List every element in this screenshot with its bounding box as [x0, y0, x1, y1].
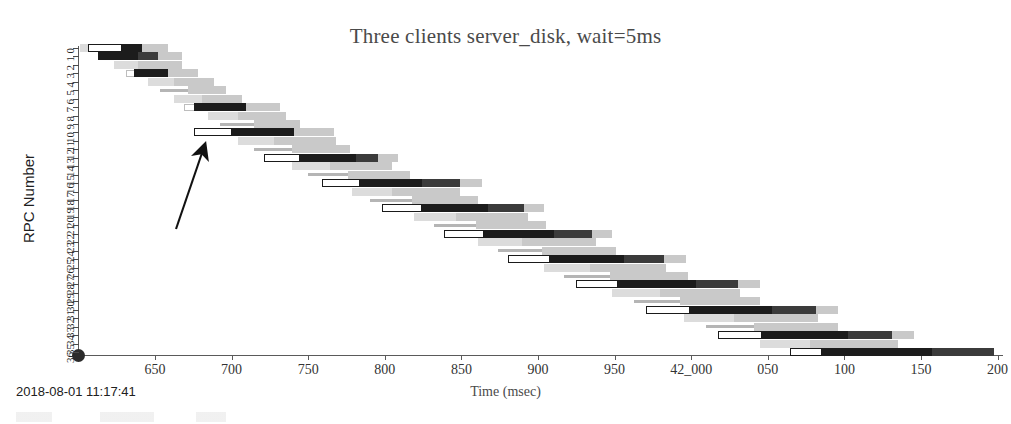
rpc-segment-13-2: [356, 154, 378, 162]
x-tick-label-050: 050: [757, 362, 778, 378]
rpc-segment-11-1: [274, 137, 336, 145]
rpc-row-21[interactable]: [78, 221, 1003, 229]
rpc-row-33[interactable]: [78, 323, 1003, 331]
rpc-segment-28-3: [738, 280, 760, 288]
rpc-segment-34-1: [762, 331, 848, 339]
rpc-segment-19-3: [524, 204, 544, 212]
rpc-row-16[interactable]: [78, 179, 1003, 187]
rpc-segment-22-3: [592, 230, 612, 238]
rpc-row-0[interactable]: [78, 44, 1003, 52]
rpc-row-15[interactable]: [78, 171, 1003, 179]
rpc-segment-16-1: [360, 179, 422, 187]
rpc-segment-7-1: [194, 103, 246, 111]
rpc-row-17[interactable]: [78, 188, 1003, 196]
rpc-row-7[interactable]: [78, 103, 1003, 111]
rpc-segment-25-0: [508, 255, 550, 263]
rpc-timeline-chart: Three clients server_disk, wait=5ms RPC …: [0, 0, 1011, 424]
rpc-segment-30-1: [680, 297, 760, 305]
rpc-row-14[interactable]: [78, 162, 1003, 170]
rpc-row-4[interactable]: [78, 78, 1003, 86]
rpc-segment-34-3: [892, 331, 914, 339]
rpc-row-20[interactable]: [78, 213, 1003, 221]
rpc-segment-15-1: [348, 171, 410, 179]
rpc-segment-16-0: [322, 179, 360, 187]
rpc-row-29[interactable]: [78, 289, 1003, 297]
rpc-row-3[interactable]: [78, 69, 1003, 77]
rpc-row-32[interactable]: [78, 314, 1003, 322]
rpc-row-31[interactable]: [78, 306, 1003, 314]
rpc-segment-4-1: [174, 78, 214, 86]
rpc-row-22[interactable]: [78, 230, 1003, 238]
x-tick-label-900: 900: [528, 362, 549, 378]
rpc-row-27[interactable]: [78, 272, 1003, 280]
rpc-segment-2-1: [138, 61, 182, 69]
rpc-segment-10-1: [232, 128, 294, 136]
rpc-row-8[interactable]: [78, 112, 1003, 120]
rpc-row-25[interactable]: [78, 255, 1003, 263]
rpc-segment-1-1: [98, 52, 138, 60]
x-tick-label-650: 650: [145, 362, 166, 378]
rpc-segment-3-1: [134, 69, 168, 77]
rpc-segment-24-1: [542, 247, 616, 255]
rpc-segment-28-1: [618, 280, 696, 288]
rpc-row-30[interactable]: [78, 297, 1003, 305]
rpc-segment-10-2: [294, 128, 334, 136]
rpc-row-18[interactable]: [78, 196, 1003, 204]
x-tick-label-850: 850: [451, 362, 472, 378]
rpc-row-11[interactable]: [78, 137, 1003, 145]
rpc-segment-25-1: [550, 255, 624, 263]
rpc-segment-0-2: [122, 44, 142, 52]
x-tick-label-750: 750: [298, 362, 319, 378]
rpc-segment-16-3: [460, 179, 482, 187]
rpc-row-35[interactable]: [78, 340, 1003, 348]
footer-clipped-text: [16, 412, 316, 422]
rpc-segment-21-1: [476, 221, 546, 229]
rpc-row-36[interactable]: [78, 348, 1003, 356]
rpc-row-10[interactable]: [78, 128, 1003, 136]
y-axis-label: RPC Number: [20, 129, 37, 269]
rpc-segment-26-1: [590, 264, 666, 272]
rpc-row-6[interactable]: [78, 95, 1003, 103]
rpc-segment-18-1: [412, 196, 478, 204]
rpc-segment-13-0: [264, 154, 300, 162]
rpc-row-24[interactable]: [78, 247, 1003, 255]
rpc-segment-28-0: [576, 280, 618, 288]
rpc-segment-1-2: [138, 52, 158, 60]
rpc-segment-17-1: [392, 188, 460, 196]
rpc-row-13[interactable]: [78, 154, 1003, 162]
rpc-segment-23-1: [522, 238, 596, 246]
rpc-segment-6-1: [202, 95, 242, 103]
rpc-segment-31-0: [646, 306, 690, 314]
rpc-segment-27-1: [610, 272, 688, 280]
rpc-row-28[interactable]: [78, 280, 1003, 288]
rpc-segment-36-2: [932, 348, 994, 356]
x-axis-label: Time (msec): [0, 384, 1011, 400]
rpc-segment-34-2: [848, 331, 892, 339]
rpc-row-26[interactable]: [78, 264, 1003, 272]
rpc-row-34[interactable]: [78, 331, 1003, 339]
rpc-row-23[interactable]: [78, 238, 1003, 246]
rpc-segment-1-3: [158, 52, 182, 60]
rpc-segment-31-2: [772, 306, 816, 314]
rpc-segment-31-1: [690, 306, 772, 314]
rpc-segment-9-1: [254, 120, 300, 128]
rpc-segment-36-0: [790, 348, 822, 356]
y-tick-label-36: 36: [64, 352, 76, 422]
rpc-segment-22-0: [444, 230, 484, 238]
rpc-segment-32-1: [734, 314, 818, 322]
rpc-row-5[interactable]: [78, 86, 1003, 94]
rpc-row-1[interactable]: [78, 52, 1003, 60]
rpc-row-12[interactable]: [78, 145, 1003, 153]
rpc-segment-35-1: [810, 340, 898, 348]
rpc-row-19[interactable]: [78, 204, 1003, 212]
rpc-segment-33-1: [754, 323, 838, 331]
rpc-segment-13-1: [300, 154, 356, 162]
rpc-segment-19-1: [422, 204, 488, 212]
x-tick-label-800: 800: [374, 362, 395, 378]
rpc-row-9[interactable]: [78, 120, 1003, 128]
rpc-segment-12-1: [292, 145, 350, 153]
rpc-segment-36-1: [822, 348, 932, 356]
rpc-segment-20-1: [456, 213, 528, 221]
x-tick-label-42_000: 42_000: [670, 362, 712, 378]
rpc-row-2[interactable]: [78, 61, 1003, 69]
